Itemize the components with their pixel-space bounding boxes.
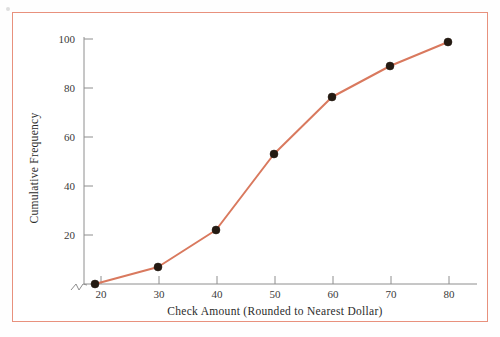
data-point[interactable] — [328, 93, 336, 101]
ogive-line — [95, 42, 448, 284]
y-tick-label: 100 — [59, 33, 76, 45]
x-tick-label: 30 — [154, 288, 166, 300]
y-axis-title: Cumulative Frequency — [28, 112, 41, 223]
data-point[interactable] — [386, 62, 394, 70]
axis-break-icon — [71, 284, 87, 290]
x-axis-title: Check Amount (Rounded to Nearest Dollar) — [167, 305, 382, 318]
data-point[interactable] — [154, 263, 162, 271]
y-tick-label: 60 — [64, 131, 76, 143]
x-tick-label: 60 — [328, 288, 340, 300]
paper-speck — [6, 7, 10, 11]
y-tick-label: 80 — [64, 82, 76, 94]
data-point[interactable] — [270, 150, 278, 158]
x-tick-label: 40 — [212, 288, 224, 300]
y-tick-marks — [84, 39, 93, 235]
x-tick-label: 80 — [444, 288, 456, 300]
y-tick-label: 40 — [64, 180, 76, 192]
data-point[interactable] — [212, 226, 220, 234]
chart-border-frame: 100 80 60 40 20 20 30 40 50 60 70 80 — [12, 12, 488, 322]
x-tick-label: 70 — [386, 288, 398, 300]
x-tick-label: 20 — [96, 288, 108, 300]
x-tick-marks — [101, 276, 449, 284]
figure-canvas: 100 80 60 40 20 20 30 40 50 60 70 80 — [0, 0, 500, 337]
data-points — [91, 38, 452, 288]
data-point[interactable] — [444, 38, 452, 46]
y-tick-label: 20 — [64, 229, 76, 241]
x-tick-label: 50 — [270, 288, 282, 300]
cumulative-frequency-ogive: 100 80 60 40 20 20 30 40 50 60 70 80 — [13, 13, 489, 323]
data-point[interactable] — [91, 280, 99, 288]
